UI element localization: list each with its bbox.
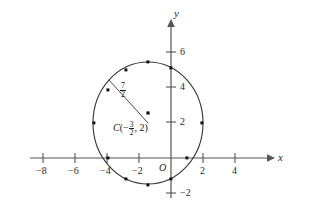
origin-label: O [159,163,166,173]
y-tick-label-6: 6 [180,47,185,57]
radius-fraction: 7 2 [120,82,126,99]
center-point-label: C(−32, 2) [113,121,148,137]
x-tick-label--6: −6 [68,166,79,176]
center-label-name: C [113,122,120,133]
x-tick-label--4: −4 [100,166,111,176]
y-axis-label: y [174,8,179,19]
x-axis-label: x [278,152,283,163]
x-tick-label--2: −2 [132,166,143,176]
center-label-open: (− [120,122,129,133]
center-point-marker [146,111,149,114]
y-tick-label-2: 2 [180,117,185,127]
y-axis [167,19,175,198]
center-label-close: , 2) [134,122,147,133]
center-x-numerator: 3 [129,121,135,129]
x-tick-label--8: −8 [36,166,47,176]
y-tick-label--2: −2 [180,188,191,198]
radius-denominator: 2 [120,90,126,99]
radius-numerator: 7 [120,82,126,90]
x-axis [30,154,275,162]
center-x-denominator: 2 [129,128,135,137]
y-tick-label-4: 4 [180,82,185,92]
center-x-fraction: 32 [129,121,135,137]
radius-length-label: 7 2 [120,82,126,99]
radius-segment [109,80,148,123]
x-tick-label-4: 4 [232,166,237,176]
x-tick-label-2: 2 [200,166,205,176]
